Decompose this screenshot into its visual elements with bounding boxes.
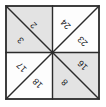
pinwheel-square-figure: 2 3 24 23 17 18 8 16 [0,0,106,107]
figure-canvas: 2 3 24 23 17 18 8 16 [0,0,106,107]
divider-lines [6,6,99,99]
